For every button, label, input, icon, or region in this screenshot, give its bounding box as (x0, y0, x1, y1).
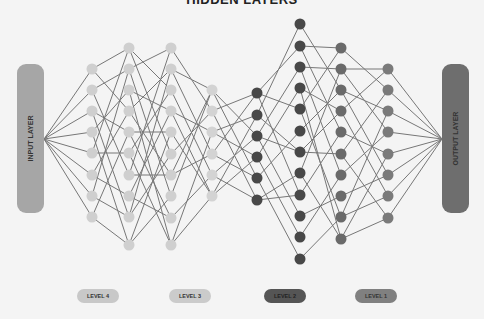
neuron-node (166, 170, 177, 181)
legend-level-2: LEVEL 2 (264, 289, 306, 303)
connection-line (341, 132, 388, 154)
connection-line (341, 69, 388, 111)
connection-line (257, 136, 300, 216)
neuron-node (336, 191, 347, 202)
neuron-node (295, 147, 306, 158)
connection-line (129, 111, 171, 196)
connection-line (92, 196, 129, 217)
neuron-node (295, 83, 306, 94)
neuron-node (252, 88, 263, 99)
neuron-node (295, 168, 306, 179)
legend-level-1: LEVEL 1 (355, 289, 397, 303)
connection-line (388, 139, 442, 196)
neuron-node (166, 127, 177, 138)
legend-level-4: LEVEL 4 (77, 289, 119, 303)
neuron-node (87, 170, 98, 181)
neuron-node (336, 43, 347, 54)
connection-line (388, 90, 442, 139)
connection-line (129, 48, 171, 90)
input-layer-label: INPUT LAYER (27, 115, 34, 161)
connection-line (92, 111, 129, 217)
connection-line (257, 178, 300, 259)
connection-line (92, 132, 129, 217)
connection-line (388, 139, 442, 175)
connection-line (44, 132, 92, 139)
neuron-node (87, 64, 98, 75)
connection-line (92, 217, 129, 245)
connection-line (92, 90, 129, 132)
connection-line (300, 111, 341, 152)
neuron-node (124, 127, 135, 138)
neuron-node (166, 43, 177, 54)
neuron-node (383, 191, 394, 202)
network-diagram (0, 0, 484, 319)
connection-line (171, 132, 212, 245)
neuron-node (252, 173, 263, 184)
neuron-node (295, 19, 306, 30)
neuron-node (383, 213, 394, 224)
neuron-node (124, 106, 135, 117)
neuron-node (295, 254, 306, 265)
neuron-node (166, 106, 177, 117)
neuron-node (207, 149, 218, 160)
connection-line (341, 90, 388, 175)
connection-line (92, 48, 129, 153)
neuron-node (124, 191, 135, 202)
neuron-node (166, 240, 177, 251)
connection-line (44, 90, 92, 139)
connection-line (171, 69, 212, 90)
neuron-node (87, 212, 98, 223)
neuron-node (207, 85, 218, 96)
neuron-node (207, 106, 218, 117)
connection-line (388, 139, 442, 154)
input-layer-bar: INPUT LAYER (17, 64, 44, 213)
neuron-node (336, 212, 347, 223)
neuron-node (207, 191, 218, 202)
neuron-node (252, 131, 263, 142)
neuron-node (124, 212, 135, 223)
neuron-node (87, 148, 98, 159)
neuron-node (124, 240, 135, 251)
neuron-node (383, 64, 394, 75)
connection-line (341, 196, 388, 217)
connection-line (171, 90, 212, 196)
connection-line (300, 217, 341, 259)
neuron-node (166, 213, 177, 224)
neuron-node (252, 110, 263, 121)
connection-line (44, 69, 92, 139)
neuron-node (295, 190, 306, 201)
connection-line (388, 111, 442, 139)
connection-line (92, 132, 129, 245)
connection-line (171, 111, 212, 196)
connection-line (44, 139, 92, 175)
neuron-node (252, 195, 263, 206)
neuron-node (383, 127, 394, 138)
neuron-node (166, 64, 177, 75)
connection-line (129, 90, 171, 111)
neuron-node (87, 127, 98, 138)
connection-line (388, 132, 442, 139)
neuron-node (336, 127, 347, 138)
output-layer-bar: OUTPUT LAYER (442, 64, 469, 213)
diagram-title: HIDDEN LAYERS (0, 0, 484, 7)
neuron-node (87, 85, 98, 96)
connection-line (341, 90, 388, 111)
neuron-node (383, 149, 394, 160)
connection-line (341, 175, 388, 196)
neuron-node (336, 85, 347, 96)
connection-line (300, 46, 341, 48)
neuron-node (124, 85, 135, 96)
connection-line (92, 69, 129, 196)
connection-line (212, 157, 257, 196)
connection-line (212, 115, 257, 196)
connection-line (388, 139, 442, 218)
neuron-node (336, 149, 347, 160)
output-layer-label: OUTPUT LAYER (452, 112, 459, 166)
connection-line (212, 154, 257, 178)
neuron-node (336, 234, 347, 245)
neuron-node (252, 152, 263, 163)
neuron-node (383, 170, 394, 181)
neuron-node (166, 191, 177, 202)
neuron-node (87, 106, 98, 117)
connection-line (92, 48, 129, 69)
